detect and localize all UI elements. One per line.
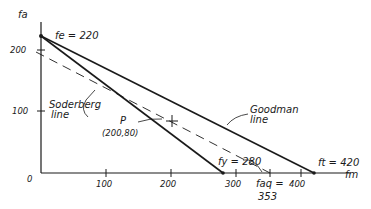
ft-label: ft = 420	[318, 157, 359, 168]
fatigue-diagram: fa fm 0 100 200 100 200 300 400 fe = 220…	[0, 0, 371, 209]
faq-label: faq =	[256, 178, 284, 189]
x-tick-label-400: 400	[289, 179, 305, 189]
p-label: P	[120, 115, 127, 126]
soderberg-label-line: line	[51, 109, 69, 120]
goodman-label-line: line	[250, 114, 268, 125]
p-leader	[138, 119, 162, 122]
x-tick-label-300: 300	[225, 179, 241, 189]
ft-point	[312, 171, 316, 175]
fy-label: fy = 280	[218, 156, 261, 167]
fe-point	[39, 34, 43, 38]
fe-label: fe = 220	[55, 30, 99, 41]
y-tick-label-200: 200	[10, 45, 26, 55]
p-coords: (200,80)	[102, 128, 138, 138]
y-axis-label: fa	[18, 9, 28, 20]
x-tick-label-200: 200	[160, 179, 176, 189]
dashed-load-line	[36, 52, 270, 173]
fy-point	[221, 171, 225, 175]
x-tick-label-100: 100	[96, 179, 112, 189]
origin-label: 0	[27, 174, 32, 184]
goodman-leader	[227, 114, 248, 125]
y-tick-label-100: 100	[12, 106, 28, 116]
x-axis-label: fm	[345, 169, 359, 180]
faq-value: 353	[258, 191, 277, 202]
